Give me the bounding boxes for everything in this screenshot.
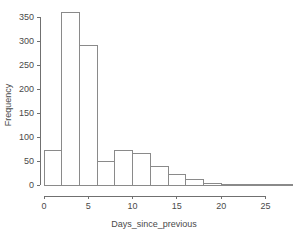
x-axis-title: Days_since_previous xyxy=(111,219,197,229)
histogram-bars xyxy=(44,12,292,185)
y-axis-tick-label: 50 xyxy=(24,156,34,166)
histogram-bar xyxy=(239,184,257,185)
y-axis-tick-label: 100 xyxy=(19,132,34,142)
histogram-bar xyxy=(186,180,204,185)
histogram-bar xyxy=(133,153,151,185)
histogram-bar xyxy=(150,167,168,185)
x-axis-tick-label: 0 xyxy=(41,201,46,211)
x-axis-tick-label: 25 xyxy=(260,201,270,211)
y-axis-tick-label: 350 xyxy=(19,12,34,22)
histogram-bar xyxy=(168,174,186,185)
histogram-bar xyxy=(257,184,275,185)
histogram-bar xyxy=(97,162,115,185)
histogram-plot-area: 050100150200250300350 0510152025 Days_si… xyxy=(0,0,297,236)
histogram-bar xyxy=(44,150,62,185)
x-axis-tick-label: 10 xyxy=(128,201,138,211)
histogram-bar xyxy=(115,150,133,185)
x-axis: 0510152025 xyxy=(41,196,270,211)
y-axis: 050100150200250300350 xyxy=(19,12,40,190)
y-axis-tick-label: 300 xyxy=(19,36,34,46)
histogram-bar xyxy=(203,184,221,185)
y-axis-title: Frequency xyxy=(3,83,13,126)
y-axis-tick-label: 0 xyxy=(29,180,34,190)
y-axis-tick-label: 250 xyxy=(19,60,34,70)
x-axis-tick-label: 15 xyxy=(172,201,182,211)
histogram-bar xyxy=(62,12,80,185)
histogram-bar xyxy=(79,45,97,185)
histogram-bar xyxy=(221,184,239,185)
histogram-figure: 050100150200250300350 0510152025 Days_si… xyxy=(0,0,297,236)
x-axis-tick-label: 5 xyxy=(86,201,91,211)
y-axis-tick-label: 150 xyxy=(19,108,34,118)
x-axis-tick-label: 20 xyxy=(216,201,226,211)
y-axis-tick-label: 200 xyxy=(19,84,34,94)
histogram-bar xyxy=(274,184,292,185)
